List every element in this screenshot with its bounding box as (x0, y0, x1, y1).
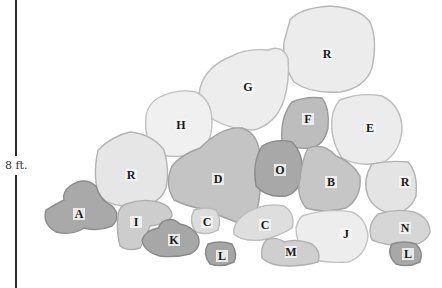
stone-label: R (401, 175, 410, 189)
stone-n: N (370, 210, 430, 246)
stone-o: O (255, 141, 302, 197)
stone-label: C (203, 215, 212, 229)
stone-g: G (199, 48, 288, 130)
stone-label: I (134, 215, 139, 229)
stone-label: A (75, 207, 84, 221)
stone-label: N (401, 221, 410, 235)
wall-diagram: 8 ft. RGHFERDOBRAICKCJNLML (0, 0, 442, 288)
stone-label: F (304, 112, 311, 126)
stone-label: R (323, 47, 332, 61)
stone-label: M (285, 245, 296, 259)
stone-l: L (390, 242, 422, 266)
stone-r: R (366, 161, 417, 214)
stone-label: L (218, 249, 226, 263)
stone-label: R (127, 168, 136, 182)
stone-label: D (214, 172, 223, 186)
stone-r: R (95, 132, 167, 206)
stone-label: G (243, 80, 252, 94)
stone-label: C (261, 218, 270, 232)
stone-label: J (343, 227, 349, 241)
stone-e: E (332, 95, 402, 165)
stone-label: H (176, 118, 186, 132)
stones-layer: RGHFERDOBRAICKCJNLML (0, 0, 442, 288)
stone-label: B (327, 175, 335, 189)
stone-l: L (205, 242, 235, 266)
stone-label: E (366, 121, 374, 135)
stone-label: K (169, 233, 179, 247)
stone-r: R (284, 6, 375, 92)
stone-label: O (275, 163, 284, 177)
stone-c: C (191, 208, 219, 234)
stone-label: L (404, 247, 412, 261)
